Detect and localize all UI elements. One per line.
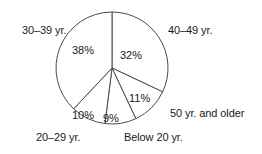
pie-chart: 30–39 yr. 40–49 yr. 50 yr. and older Bel…: [0, 0, 262, 154]
slice-label-20-29-yr: 20–29 yr.: [36, 131, 80, 143]
slice-label-below-20-yr: Below 20 yr.: [124, 131, 183, 143]
slice-label-40-49-yr: 40–49 yr.: [168, 24, 212, 36]
slice-label-30-39-yr: 30–39 yr.: [22, 24, 66, 36]
slice-value-below-20-yr: 9%: [103, 112, 119, 124]
pie-slices-group: [56, 12, 168, 124]
slice-value-20-29-yr: 10%: [72, 109, 94, 121]
slice-value-40-49-yr: 32%: [120, 49, 142, 61]
slice-value-50-yr-and-older: 11%: [129, 92, 150, 104]
slice-value-30-39-yr: 38%: [72, 44, 94, 56]
slice-label-50-yr-and-older: 50 yr. and older: [170, 107, 244, 119]
